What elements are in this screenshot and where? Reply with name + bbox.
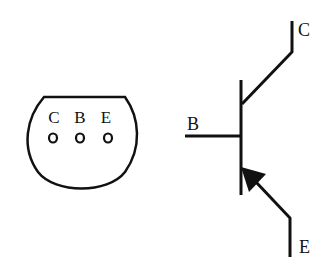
emitter-label: E [299,237,310,257]
pin-label-e: E [101,108,111,127]
pin-c-icon [49,134,57,143]
package-pins [49,134,112,143]
transistor-diagram: C B E C B E [0,0,332,273]
pin-label-c: C [48,108,59,127]
package-pin-labels: C B E [48,108,111,127]
pnp-symbol [185,21,292,257]
base-label: B [187,114,199,134]
pin-e-icon [104,134,112,143]
pin-label-b: B [74,108,85,127]
collector-lead [242,21,292,104]
emitter-lead [256,182,290,257]
collector-label: C [298,20,310,40]
pin-b-icon [76,134,84,143]
